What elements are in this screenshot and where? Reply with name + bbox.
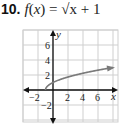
y-tick-label: 4 (45, 55, 50, 66)
function-curve (46, 68, 114, 91)
x-axis-label: x (110, 90, 116, 102)
y-axis-label: y (55, 28, 61, 40)
x-tick-label: 2 (65, 92, 70, 103)
function-graph: −2246642−2 x y (0, 0, 122, 125)
y-tick-label: 6 (45, 40, 50, 51)
x-tick-label: −2 (29, 92, 40, 103)
y-axis-down-arrow-icon (50, 118, 56, 124)
x-tick-label: 4 (80, 92, 85, 103)
x-tick-label: 6 (95, 92, 100, 103)
y-tick-label: −2 (41, 100, 52, 111)
y-tick-label: 2 (45, 70, 50, 81)
curve-arrow-icon (107, 66, 115, 72)
